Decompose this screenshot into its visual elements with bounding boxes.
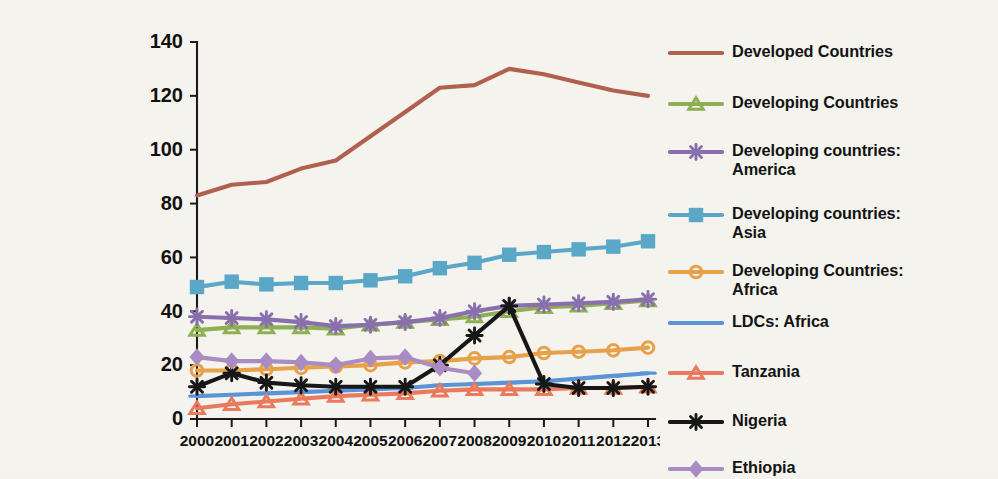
legend-item-developed-countries[interactable]: Developed Countries: [668, 42, 994, 63]
legend-item-label: Tanzania: [732, 362, 800, 381]
legend-item-tanzania[interactable]: Tanzania: [668, 362, 994, 383]
x-tick-label: 2013: [631, 432, 660, 449]
legend-swatch-icon: [668, 459, 724, 479]
y-tick-label: 80: [161, 192, 183, 214]
y-tick-label: 0: [172, 407, 183, 429]
y-axis-tick-labels: 020406080100120140: [150, 30, 183, 429]
legend-item-label: Developing countries: America: [732, 141, 901, 179]
x-axis-tick-labels: 2000200120022003200420052006200720082009…: [180, 432, 660, 449]
y-tick-label: 20: [161, 353, 183, 375]
series-developed-countries: [197, 69, 648, 196]
legend-swatch-icon: [668, 262, 724, 282]
x-tick-label: 2001: [214, 432, 249, 449]
legend-swatch-icon: [668, 43, 724, 63]
legend-item-label: Developed Countries: [732, 42, 893, 61]
plot-area: 020406080100120140 200020012002200320042…: [0, 0, 660, 473]
legend-swatch-icon: [668, 313, 724, 333]
legend-item-ethiopia[interactable]: Ethiopia: [668, 458, 994, 479]
data-series-group: [189, 69, 655, 414]
legend-item-label: Ethiopia: [732, 458, 795, 477]
legend-item-developing-countries-africa[interactable]: Developing Countries: Africa: [668, 261, 994, 299]
legend-item-label: Developing Countries: Africa: [732, 261, 904, 299]
legend-swatch-icon: [668, 205, 724, 225]
x-tick-label: 2006: [388, 432, 423, 449]
legend-item-ldcs-africa[interactable]: LDCs: Africa: [668, 312, 994, 333]
y-tick-label: 60: [161, 246, 183, 268]
x-tick-label: 2011: [562, 432, 596, 449]
legend-item-label: LDCs: Africa: [732, 312, 829, 331]
series-developing-countries-asia: [191, 235, 654, 293]
series-nigeria: [189, 298, 655, 395]
legend-item-developing-countries-america[interactable]: Developing countries: America: [668, 141, 994, 179]
series-developing-countries: [190, 294, 655, 335]
x-tick-label: 2004: [319, 432, 354, 449]
x-tick-label: 2010: [527, 432, 561, 449]
x-tick-label: 2005: [353, 432, 388, 449]
legend-item-developing-countries-asia[interactable]: Developing countries: Asia: [668, 204, 994, 242]
x-tick-label: 2003: [284, 432, 319, 449]
x-tick-label: 2009: [492, 432, 527, 449]
y-tick-label: 140: [150, 30, 183, 52]
legend-swatch-icon: [668, 363, 724, 383]
y-tick-label: 40: [161, 300, 183, 322]
legend-item-label: Developing Countries: [732, 93, 898, 112]
x-tick-label: 2007: [423, 432, 457, 449]
legend-item-label: Nigeria: [732, 411, 787, 430]
legend-swatch-icon: [668, 142, 724, 162]
line-chart: 020406080100120140 200020012002200320042…: [0, 0, 660, 473]
chart-legend: Developed CountriesDeveloping CountriesD…: [668, 36, 994, 436]
x-tick-label: 2008: [457, 432, 492, 449]
x-tick-label: 2000: [180, 432, 214, 449]
legend-item-developing-countries[interactable]: Developing Countries: [668, 93, 994, 114]
legend-item-nigeria[interactable]: Nigeria: [668, 411, 994, 432]
legend-swatch-icon: [668, 412, 724, 432]
x-tick-label: 2002: [249, 432, 283, 449]
y-tick-label: 100: [150, 138, 183, 160]
legend-swatch-icon: [668, 94, 724, 114]
y-tick-label: 120: [150, 84, 183, 106]
legend-item-label: Developing countries: Asia: [732, 204, 901, 242]
x-tick-label: 2012: [596, 432, 630, 449]
